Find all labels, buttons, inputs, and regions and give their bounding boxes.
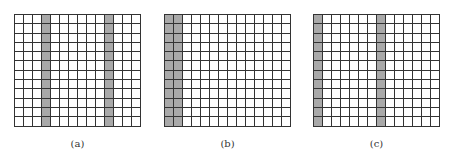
grid-cell [51, 43, 60, 52]
grid-cell [15, 61, 24, 70]
grid-cell [368, 89, 377, 98]
grid-cell [413, 43, 422, 52]
grid-cell [413, 71, 422, 80]
grid-cell [123, 61, 132, 70]
grid-cell [87, 15, 96, 24]
grid-cell [15, 71, 24, 80]
grid-cell [395, 71, 404, 80]
grid-cell [359, 99, 368, 108]
shaded-cell [42, 61, 51, 70]
grid-cell [237, 34, 246, 43]
grid-cell [413, 52, 422, 61]
grid-cell [201, 52, 210, 61]
grid-cell [51, 99, 60, 108]
shaded-cell [377, 34, 386, 43]
grid-cell [255, 89, 264, 98]
grid-cell [395, 15, 404, 24]
grid-cell [323, 117, 332, 126]
grid-cell [368, 108, 377, 117]
grid-cell [228, 89, 237, 98]
grid-cell [386, 80, 395, 89]
grid-cell [123, 89, 132, 98]
grid-cell [78, 89, 87, 98]
grid-cell [201, 71, 210, 80]
grid-cell [264, 99, 273, 108]
grid-cell [15, 99, 24, 108]
grid-cell [237, 43, 246, 52]
shaded-cell [165, 117, 174, 126]
grid-cell [386, 43, 395, 52]
grid-cell [78, 99, 87, 108]
grid-cell [210, 61, 219, 70]
shaded-cell [314, 108, 323, 117]
grid-cell [192, 43, 201, 52]
shaded-cell [174, 15, 183, 24]
shaded-cell [165, 80, 174, 89]
grid-cell [78, 61, 87, 70]
grid-cell [264, 15, 273, 24]
grid-cell [386, 15, 395, 24]
shaded-cell [174, 43, 183, 52]
grid-cell [350, 71, 359, 80]
shaded-cell [174, 71, 183, 80]
shaded-cell [377, 71, 386, 80]
grid-cell [264, 52, 273, 61]
grid-cell [219, 108, 228, 117]
grid-cell [132, 15, 141, 24]
grid-cell [368, 71, 377, 80]
grid-cell [359, 71, 368, 80]
grid-cell [228, 24, 237, 33]
grid-cell [51, 108, 60, 117]
cell-grid [313, 14, 440, 127]
grid-cell [332, 24, 341, 33]
grid-cell [273, 89, 282, 98]
grid-cell [431, 71, 440, 80]
shaded-cell [314, 15, 323, 24]
grid-cell [114, 52, 123, 61]
grid-cell [404, 52, 413, 61]
shaded-cell [105, 89, 114, 98]
grid-cell [69, 89, 78, 98]
grid-cell [210, 24, 219, 33]
shaded-cell [377, 80, 386, 89]
grid-cell [359, 24, 368, 33]
grid-cell [422, 15, 431, 24]
grid-cell [350, 34, 359, 43]
shaded-cell [165, 99, 174, 108]
grid-cell [413, 34, 422, 43]
shaded-cell [105, 71, 114, 80]
grid-cell [386, 89, 395, 98]
shaded-cell [165, 43, 174, 52]
grid-cell [404, 80, 413, 89]
grid-cell [422, 99, 431, 108]
grid-cell [255, 108, 264, 117]
grid-cell [69, 61, 78, 70]
shaded-cell [105, 15, 114, 24]
grid-cell [78, 43, 87, 52]
grid-cell [246, 24, 255, 33]
grid-cell [395, 80, 404, 89]
grid-cell [201, 15, 210, 24]
grid-cell [183, 89, 192, 98]
grid-cell [386, 99, 395, 108]
grid-cell [264, 34, 273, 43]
grid-cell [219, 117, 228, 126]
grid-cell [413, 80, 422, 89]
grid-cell [51, 89, 60, 98]
panel-label: (b) [164, 138, 291, 149]
grid-cell [60, 24, 69, 33]
grid-cell [431, 99, 440, 108]
grid-cell [96, 89, 105, 98]
grid-cell [192, 24, 201, 33]
grid-cell [264, 89, 273, 98]
grid-cell [201, 34, 210, 43]
grid-cell [282, 61, 291, 70]
grid-cell [123, 117, 132, 126]
shaded-cell [377, 89, 386, 98]
grid-cell [422, 108, 431, 117]
grid-cell [350, 99, 359, 108]
grid-cell [219, 15, 228, 24]
grid-cell [60, 117, 69, 126]
shaded-cell [165, 34, 174, 43]
grid-cell [96, 71, 105, 80]
